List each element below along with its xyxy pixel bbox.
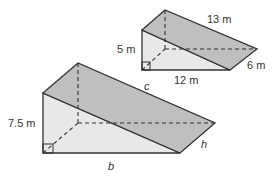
large-depth-label: h <box>201 138 207 150</box>
prism-diagram: 5 m 12 m 13 m 6 m 7.5 m b c h <box>0 0 274 179</box>
small-depth-label: 6 m <box>247 59 265 71</box>
prisms-svg: 5 m 12 m 13 m 6 m 7.5 m b c h <box>0 0 274 179</box>
large-hypotenuse-label: c <box>144 80 150 92</box>
small-base-label: 12 m <box>174 74 198 86</box>
large-height-label: 7.5 m <box>8 117 36 129</box>
small-prism: 5 m 12 m 13 m 6 m <box>117 10 265 86</box>
large-base-label: b <box>108 160 114 172</box>
small-height-label: 5 m <box>117 43 135 55</box>
small-hypotenuse-label: 13 m <box>207 13 231 25</box>
